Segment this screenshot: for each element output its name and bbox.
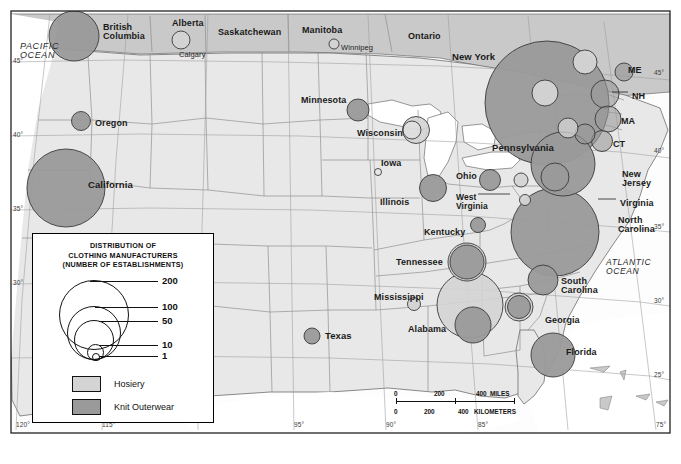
scalebar-miles-200: 200 bbox=[434, 390, 445, 397]
label-line: Oregon bbox=[95, 119, 128, 128]
state-label-alabama: Alabama bbox=[408, 325, 446, 334]
province-label-manitoba: Manitoba bbox=[302, 26, 342, 35]
circle-pennsylvania-inner bbox=[541, 163, 569, 191]
state-label-north-carolina: NorthCarolina bbox=[618, 216, 655, 235]
label-line: Calgary bbox=[179, 51, 206, 59]
graticule-label-right-25: 25° bbox=[654, 372, 664, 379]
circle-iowa bbox=[375, 169, 382, 176]
state-label-california: California bbox=[88, 180, 133, 190]
circle-massachusetts bbox=[595, 106, 621, 132]
state-label-pennsylvania: Pennsylvania bbox=[492, 143, 554, 153]
province-label-alberta: Alberta bbox=[172, 19, 204, 28]
state-label-oregon: Oregon bbox=[95, 119, 128, 128]
label-line: Pennsylvania bbox=[492, 143, 554, 153]
label-line: California bbox=[88, 180, 133, 190]
state-label-wisconsin: Wisconsin bbox=[357, 129, 403, 138]
label-line: MA bbox=[621, 117, 635, 126]
label-line: Manitoba bbox=[302, 26, 342, 35]
legend-value-50: 50 bbox=[162, 315, 173, 326]
legend-value-100: 100 bbox=[162, 301, 178, 312]
circle-oregon bbox=[72, 112, 91, 131]
label-line: Ohio bbox=[456, 172, 477, 181]
state-label-connecticut: CT bbox=[613, 140, 625, 149]
graticule-label-bottom-90: 90° bbox=[386, 422, 396, 429]
state-label-texas: Texas bbox=[325, 331, 352, 341]
map-figure: PACIFICOCEANATLANTICOCEANBritishColumbia… bbox=[0, 0, 681, 464]
graticule-label-bottom-85: 85° bbox=[478, 422, 488, 429]
state-label-iowa: Iowa bbox=[381, 159, 401, 168]
legend-title-line-3: (NUMBER OF ESTABLISHMENTS) bbox=[33, 260, 213, 270]
legend-title: DISTRIBUTION OF CLOTHING MANUFACTURERS (… bbox=[33, 241, 213, 270]
graticule-label-left-45: 45° bbox=[13, 58, 23, 65]
scalebar-miles-0: 0 bbox=[394, 390, 398, 397]
label-line: Alabama bbox=[408, 325, 446, 334]
label-line: Kentucky bbox=[424, 228, 465, 237]
label-line: ME bbox=[628, 66, 642, 75]
scalebar-tick-end bbox=[514, 398, 515, 404]
label-line: Jersey bbox=[622, 179, 651, 188]
label-line: Wisconsin bbox=[357, 129, 403, 138]
state-label-illinois: Illinois bbox=[380, 198, 409, 207]
state-label-new-york: New York bbox=[452, 52, 495, 62]
legend-leader-10 bbox=[99, 345, 158, 346]
circle-texas bbox=[304, 328, 320, 344]
scalebar-tick-0 bbox=[396, 398, 397, 404]
label-line: New York bbox=[452, 52, 495, 62]
label-line: Illinois bbox=[380, 198, 409, 207]
label-line: Columbia bbox=[103, 32, 145, 41]
scalebar-km-0: 0 bbox=[394, 408, 398, 415]
label-line: Minnesota bbox=[301, 96, 346, 105]
legend-value-10: 10 bbox=[162, 339, 173, 350]
legend-swatch-knit-outerwear bbox=[72, 399, 101, 415]
circle-winnipeg bbox=[329, 39, 339, 49]
legend-value-1: 1 bbox=[162, 350, 167, 361]
circle-west-virginia bbox=[520, 195, 531, 206]
circle-virginia bbox=[558, 118, 578, 138]
legend-swatch-label-knit-outerwear: Knit Outerwear bbox=[114, 402, 174, 412]
province-label-ontario: Ontario bbox=[408, 32, 441, 41]
state-label-new-jersey: NewJersey bbox=[622, 170, 651, 189]
legend-leader-50 bbox=[99, 321, 158, 322]
state-label-south-carolina: SouthCarolina bbox=[561, 277, 598, 296]
label-line: Georgia bbox=[545, 316, 580, 325]
circle-alberta bbox=[172, 31, 190, 49]
legend-circle-1 bbox=[92, 353, 100, 361]
legend-title-line-2: CLOTHING MANUFACTURERS bbox=[33, 251, 213, 261]
graticule-label-left-30: 30° bbox=[13, 280, 23, 287]
graticule-label-right-40: 40° bbox=[654, 148, 664, 155]
city-label-winnipeg: Winnipeg bbox=[341, 44, 373, 52]
city-label-calgary: Calgary bbox=[179, 51, 206, 59]
state-label-georgia: Georgia bbox=[545, 316, 580, 325]
legend-title-line-1: DISTRIBUTION OF bbox=[33, 241, 213, 251]
circle-new-england-north bbox=[573, 50, 597, 74]
province-label-saskatchewan: Saskatchewan bbox=[218, 28, 281, 37]
state-label-maine: ME bbox=[628, 66, 642, 75]
scalebar-miles-400: 400 bbox=[476, 390, 487, 397]
legend-leader-100 bbox=[95, 307, 158, 308]
label-line: Virginia bbox=[620, 199, 654, 208]
label-line: OCEAN bbox=[20, 51, 59, 60]
circle-south-carolina bbox=[528, 265, 558, 295]
ocean-label-atlantic-ocean: ATLANTICOCEAN bbox=[606, 258, 651, 276]
scalebar-km-200: 200 bbox=[424, 408, 435, 415]
label-line: Ontario bbox=[408, 32, 441, 41]
scalebar-km-unit: KILOMETERS bbox=[474, 408, 516, 415]
legend-swatch-hosiery bbox=[72, 376, 101, 392]
legend-value-200: 200 bbox=[162, 275, 178, 286]
map-scalebar: 0 200 400 MILES 0 200 400 KILOMETERS bbox=[392, 386, 537, 420]
circle-upstate-ny bbox=[532, 80, 558, 106]
graticule-label-bottom-120: 120° bbox=[16, 422, 30, 429]
province-label-british-columbia: BritishColumbia bbox=[103, 23, 145, 42]
graticule-label-right-35: 35° bbox=[654, 224, 664, 231]
scalebar-miles-unit: MILES bbox=[490, 390, 510, 397]
circle-new-hampshire bbox=[591, 80, 619, 108]
label-line: OCEAN bbox=[606, 267, 651, 276]
state-label-west-virginia: WestVirginia bbox=[456, 193, 488, 211]
legend-leader-200 bbox=[90, 281, 158, 282]
graticule-label-bottom-115: 115° bbox=[102, 422, 115, 429]
circle-ohio bbox=[480, 170, 501, 191]
legend-leader-1 bbox=[99, 356, 158, 357]
state-label-mississippi: Mississippi bbox=[374, 293, 424, 302]
ocean-label-pacific-ocean: PACIFICOCEAN bbox=[20, 42, 59, 61]
label-line: NH bbox=[632, 92, 645, 101]
